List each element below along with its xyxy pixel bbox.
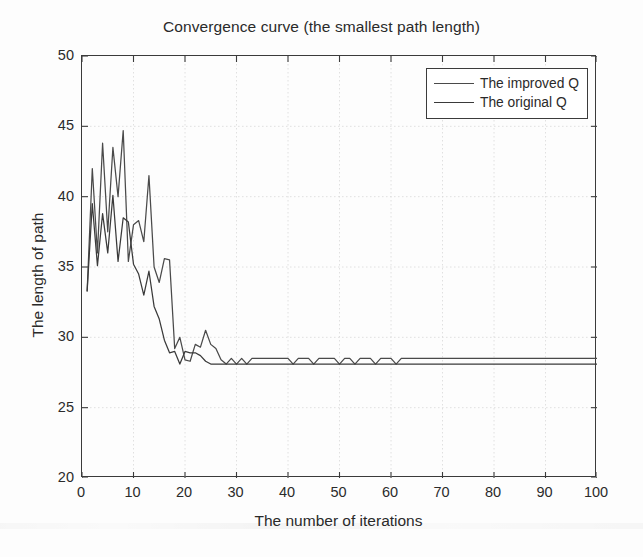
legend-label-original-q: The original Q [480, 95, 567, 110]
grid-lines [82, 56, 597, 478]
y-axis-tick-label: 45 [40, 117, 74, 133]
x-axis-tick-label: 20 [176, 484, 192, 500]
legend-label-improved-q: The improved Q [480, 76, 579, 91]
x-axis-tick-label: 30 [227, 484, 243, 500]
legend-item-improved-q: The improved Q [434, 74, 580, 93]
series-line-original-q [87, 195, 597, 364]
y-axis-tick-label: 25 [40, 399, 74, 415]
x-axis-tick-label: 90 [536, 484, 552, 500]
y-axis-tick-label: 20 [40, 469, 74, 485]
scan-artifact-band [0, 523, 643, 529]
x-axis-tick-label: 60 [382, 484, 398, 500]
x-axis-tick-labels: 0102030405060708090100 [81, 484, 596, 506]
x-axis-tick-label: 70 [433, 484, 449, 500]
x-axis-tick-label: 0 [77, 484, 85, 500]
data-series-lines [87, 131, 597, 365]
y-axis-title: The length of path [29, 155, 47, 395]
x-axis-tick-label: 40 [279, 484, 295, 500]
x-axis-tick-label: 100 [584, 484, 608, 500]
x-axis-tick-label: 10 [124, 484, 140, 500]
series-line-improved-q [87, 131, 597, 365]
legend-item-original-q: The original Q [434, 93, 580, 112]
legend-swatch-improved-q [434, 83, 474, 84]
legend-swatch-original-q [434, 102, 474, 103]
y-axis-tick-label: 50 [40, 47, 74, 63]
figure-canvas: Convergence curve (the smallest path len… [0, 0, 643, 557]
plot-svg [82, 56, 597, 478]
legend-box: The improved Q The original Q [426, 68, 588, 119]
x-axis-tick-label: 50 [330, 484, 346, 500]
x-axis-tick-label: 80 [485, 484, 501, 500]
chart-title: Convergence curve (the smallest path len… [0, 18, 643, 36]
